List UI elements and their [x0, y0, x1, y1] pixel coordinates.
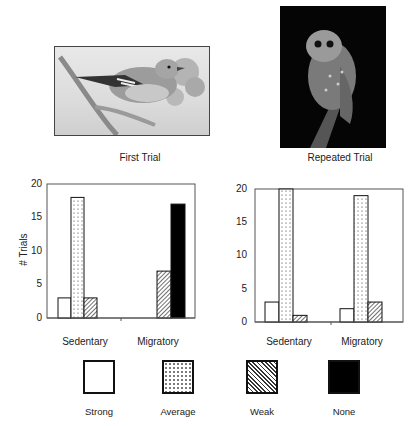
legend-swatch-none [328, 360, 360, 394]
legend-label: Average [148, 406, 208, 417]
bar-sedentary-weak [293, 315, 307, 322]
y-tick: 5 [227, 283, 247, 294]
first-trial-caption: First Trial [90, 152, 190, 163]
bar-migratory-weak [368, 302, 382, 322]
bird-illustration-icon [55, 47, 209, 135]
bar-migratory-strong [340, 309, 354, 322]
y-tick: 15 [22, 211, 42, 222]
x-category: Sedentary [45, 336, 125, 347]
owl-photo [280, 6, 386, 148]
bar-migratory-none [171, 204, 185, 318]
y-tick: 10 [22, 245, 42, 256]
bar-migratory-weak [157, 271, 171, 318]
x-category: Migratory [322, 336, 402, 347]
y-tick: 20 [22, 178, 42, 189]
owl-illustration-icon [280, 6, 386, 148]
legend-swatch-strong [83, 360, 115, 394]
y-tick: 0 [22, 312, 42, 323]
y-tick: 5 [22, 278, 42, 289]
bar-migratory-average [354, 196, 368, 322]
y-tick: 20 [227, 183, 247, 194]
bar-sedentary-strong [58, 298, 71, 318]
repeated-trial-plot [253, 186, 408, 331]
x-category: Migratory [118, 336, 198, 347]
legend-label: None [314, 406, 374, 417]
bar-sedentary-average [71, 197, 84, 318]
y-tick: 10 [227, 249, 247, 260]
bar-sedentary-average [279, 189, 293, 322]
y-tick: 0 [227, 316, 247, 327]
x-category: Sedentary [249, 336, 329, 347]
repeated-trial-caption: Repeated Trial [290, 152, 390, 163]
bar-sedentary-weak [84, 298, 97, 318]
legend-swatch-weak [246, 360, 278, 394]
y-tick: 15 [227, 216, 247, 227]
bird-photo [54, 46, 210, 136]
bar-sedentary-strong [265, 302, 279, 322]
legend-swatch-average [162, 360, 194, 394]
legend-label: Strong [69, 406, 129, 417]
legend-label: Weak [232, 406, 292, 417]
first-trial-plot [45, 180, 200, 325]
